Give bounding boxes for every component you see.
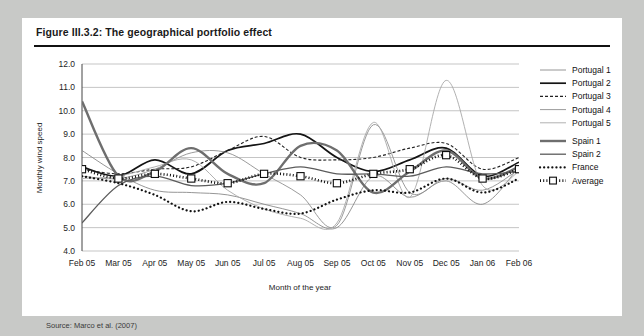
series-marker — [406, 166, 413, 173]
series-marker — [188, 175, 195, 182]
y-tick-label: 10.0 — [58, 106, 75, 116]
x-tick-label: Oct 05 — [361, 258, 386, 268]
x-tick-label: Feb 06 — [506, 258, 533, 268]
x-tick-labels: Feb 05Mar 05Apr 05May 05Jun 05Jul 05Aug … — [69, 258, 533, 268]
series-marker — [479, 175, 486, 182]
data-series — [78, 80, 522, 229]
legend-label: Portugal 4 — [572, 105, 611, 115]
figure-card: Figure III.3.2: The geographical portfol… — [22, 18, 622, 316]
series-marker — [78, 166, 85, 173]
legend-label: Average — [572, 176, 604, 186]
y-tick-label: 9.0 — [63, 129, 75, 139]
series-marker — [515, 166, 522, 173]
legend-item-portugal-4[interactable]: Portugal 4 — [540, 105, 611, 115]
title-divider — [34, 45, 610, 47]
series-marker — [151, 170, 158, 177]
x-tick-label: Dec 05 — [433, 258, 460, 268]
legend-item-spain-1[interactable]: Spain 1 — [540, 136, 601, 146]
x-axis-title: Month of the year — [269, 283, 332, 292]
legend-item-france[interactable]: France — [540, 162, 599, 172]
y-axis-title: Monthly wind speed — [35, 123, 44, 194]
source-note: Source: Marco et al. (2007) — [46, 321, 137, 330]
x-tick-label: Mar 05 — [105, 258, 132, 268]
y-tick-label: 4.0 — [63, 246, 75, 256]
chart-area: 12.011.010.09.08.07.06.05.04.0 Feb 05Mar… — [22, 52, 622, 302]
x-tick-label: Sep 05 — [323, 258, 350, 268]
y-tick-labels: 12.011.010.09.08.07.06.05.04.0 — [58, 59, 75, 256]
legend-label: France — [572, 162, 599, 172]
legend-label: Spain 2 — [572, 149, 601, 159]
x-tick-label: Apr 05 — [142, 258, 167, 268]
series-marker — [260, 170, 267, 177]
legend-item-portugal-2[interactable]: Portugal 2 — [540, 78, 611, 88]
x-tick-label: Jun 05 — [215, 258, 241, 268]
chart-legend: Portugal 1Portugal 2Portugal 3Portugal 4… — [540, 65, 611, 186]
legend-label: Portugal 1 — [572, 65, 611, 75]
series-marker — [115, 175, 122, 182]
legend-item-spain-2[interactable]: Spain 2 — [540, 149, 601, 159]
legend-item-portugal-1[interactable]: Portugal 1 — [540, 65, 611, 75]
y-tick-label: 11.0 — [59, 82, 75, 92]
figure-title: Figure III.3.2: The geographical portfol… — [36, 26, 272, 38]
legend-label: Portugal 2 — [572, 78, 611, 88]
y-tick-label: 8.0 — [63, 153, 75, 163]
wind-speed-line-chart: 12.011.010.09.08.07.06.05.04.0 Feb 05Mar… — [22, 52, 622, 302]
legend-item-portugal-3[interactable]: Portugal 3 — [540, 91, 611, 101]
legend-marker — [550, 177, 557, 184]
legend-label: Portugal 3 — [572, 91, 611, 101]
x-tick-label: Jan 06 — [470, 258, 496, 268]
y-tick-label: 5.0 — [63, 223, 75, 233]
series-marker — [333, 180, 340, 187]
series-marker — [224, 180, 231, 187]
x-tick-label: Feb 05 — [69, 258, 96, 268]
x-tick-label: Nov 05 — [396, 258, 423, 268]
legend-label: Portugal 5 — [572, 118, 611, 128]
x-tick-label: May 05 — [177, 258, 205, 268]
y-tick-label: 7.0 — [63, 176, 75, 186]
series-marker — [297, 173, 304, 180]
x-tick-label: Jul 05 — [253, 258, 276, 268]
legend-item-average[interactable]: Average — [540, 176, 604, 186]
series-marker — [370, 170, 377, 177]
x-tick-label: Aug 05 — [287, 258, 314, 268]
y-tick-label: 12.0 — [58, 59, 75, 69]
series-marker — [443, 152, 450, 159]
legend-item-portugal-5[interactable]: Portugal 5 — [540, 118, 611, 128]
legend-label: Spain 1 — [572, 136, 601, 146]
y-tick-label: 6.0 — [63, 199, 75, 209]
